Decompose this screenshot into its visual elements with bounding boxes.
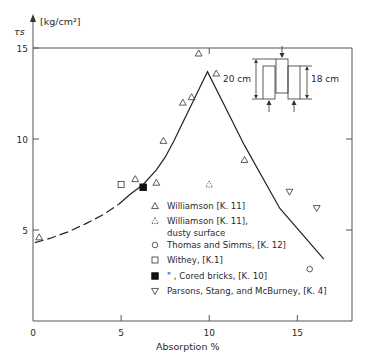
dimension-label-18cm: 18 cm	[311, 74, 339, 84]
legend-marker-triangle	[152, 203, 159, 209]
data-point-triangle	[36, 234, 43, 240]
brick-left	[263, 66, 275, 99]
arrowhead-up-icon	[267, 100, 272, 105]
brick-specimen-diagram: 20 cm 18 cm	[223, 46, 339, 112]
y-axis-label: τs	[14, 26, 25, 37]
legend-label: Williamson [K. 11],	[167, 216, 248, 226]
data-point-triangle	[160, 137, 167, 143]
data-point-dotted-triangle	[206, 181, 213, 187]
y-axis-unit: [kg/cm²]	[40, 16, 80, 27]
legend-marker-inverted-triangle	[152, 288, 159, 294]
dim-arrow-icon	[305, 95, 309, 99]
legend-marker-circle	[152, 242, 158, 248]
data-point-circle	[307, 266, 313, 272]
data-point-square	[118, 182, 124, 188]
legend-marker-dotted-triangle	[152, 218, 159, 224]
arrowhead-up-icon	[292, 100, 297, 105]
x-tick-label: 5	[118, 328, 124, 338]
fit-curve-dashed	[35, 205, 119, 243]
data-point-triangle	[241, 157, 248, 163]
data-point-triangle	[179, 99, 186, 105]
legend-label-continued: dusty surface	[167, 228, 225, 238]
data-points	[36, 50, 320, 272]
legend-marker-square	[152, 257, 158, 263]
legend-label: Williamson [K. 11]	[167, 201, 245, 211]
brick-middle	[276, 59, 288, 93]
data-point-triangle	[195, 50, 202, 56]
brick-right	[288, 66, 300, 99]
y-tick-label: 10	[17, 135, 29, 145]
data-point-triangle	[153, 179, 160, 185]
y-tick-label: 15	[17, 44, 28, 54]
x-tick-label: 0	[30, 328, 36, 338]
dimension-label-20cm: 20 cm	[223, 74, 251, 84]
data-point-filled-square	[140, 184, 146, 190]
x-tick-label: 15	[292, 328, 303, 338]
data-point-triangle	[132, 176, 139, 182]
y-axis-arrow-icon	[30, 14, 36, 22]
x-tick-label: 10	[204, 328, 216, 338]
legend: Williamson [K. 11]Williamson [K. 11],dus…	[152, 201, 327, 296]
x-axis-label: Absorption %	[156, 341, 219, 352]
legend-label: Parsons, Stang, and McBurney, [K. 4]	[167, 286, 327, 296]
data-point-inverted-triangle	[286, 189, 293, 195]
legend-label: Withey, [K.1]	[167, 255, 223, 265]
chart: τs [kg/cm²] Absorption % 05101551015 20 …	[0, 0, 368, 360]
legend-label: Thomas and Simms, [K. 12]	[166, 240, 286, 250]
data-point-triangle	[213, 70, 220, 76]
dim-arrow-icon	[254, 95, 258, 99]
dim-arrow-icon	[254, 60, 258, 64]
legend-marker-filled-square	[152, 273, 158, 279]
data-point-inverted-triangle	[313, 206, 320, 212]
y-tick-label: 5	[22, 226, 28, 236]
legend-label: " , Cored bricks, [K. 10]	[167, 271, 267, 281]
dim-arrow-icon	[305, 67, 309, 71]
arrowhead-down-icon	[280, 53, 285, 58]
